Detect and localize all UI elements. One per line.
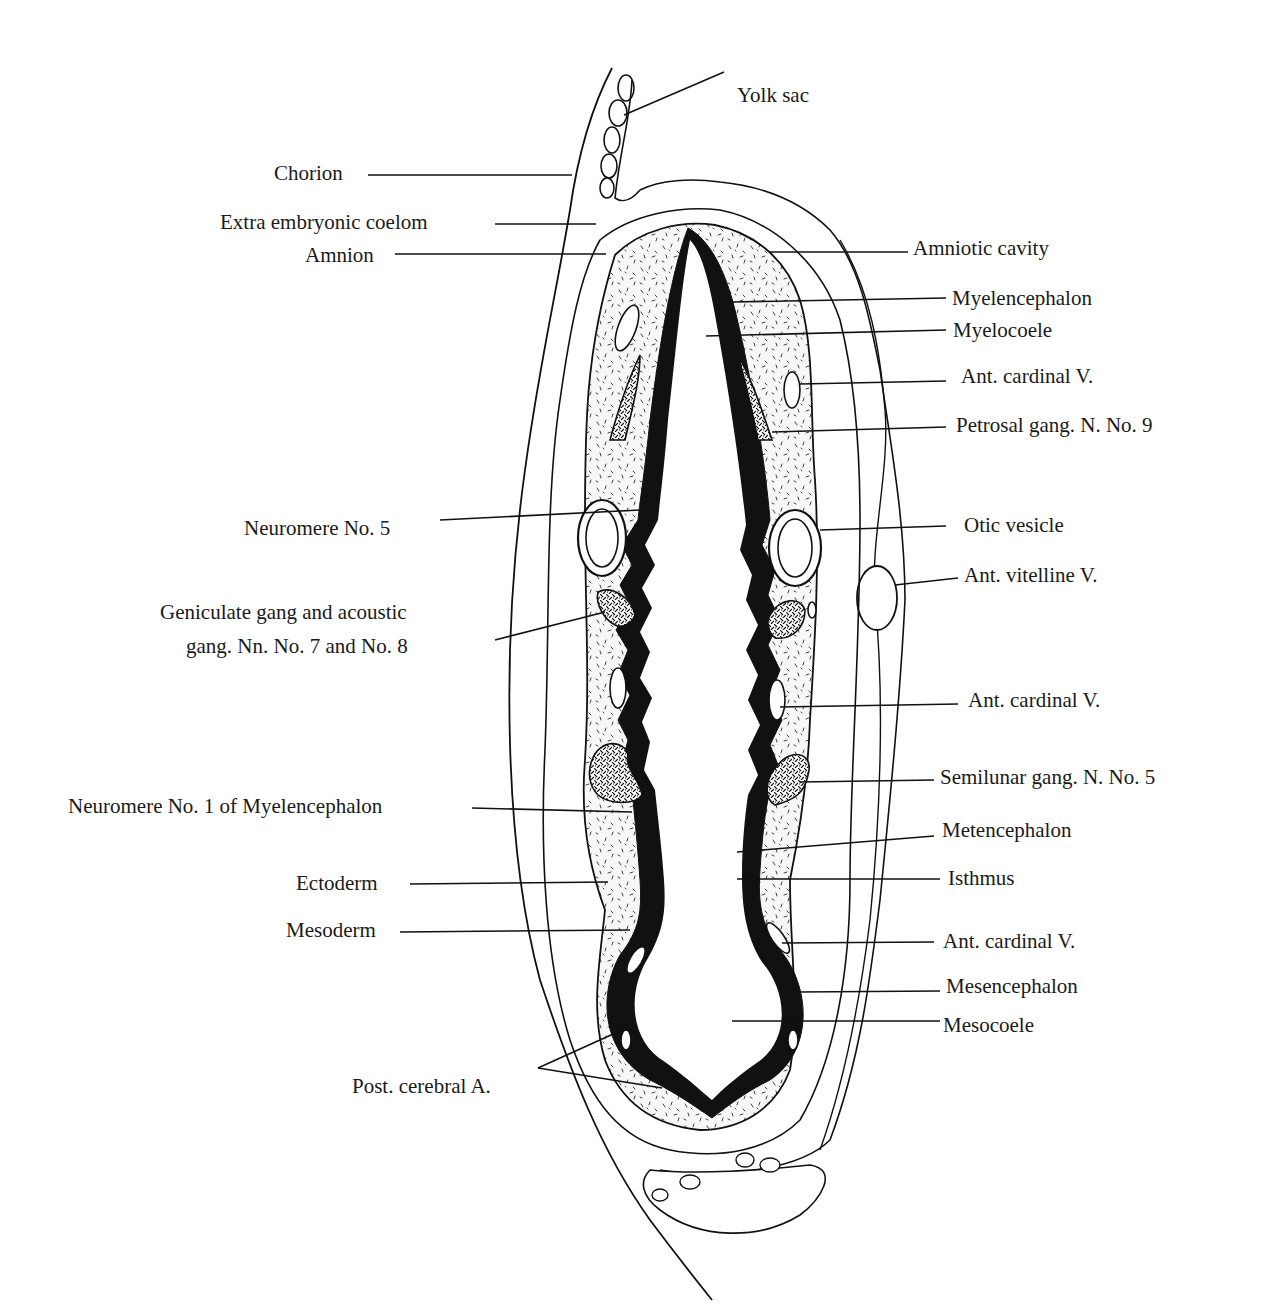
label-yolk-sac: Yolk sac — [737, 85, 809, 106]
label-myelencephalon: Myelencephalon — [952, 288, 1092, 309]
label-extra-embryonic-coelom: Extra embryonic coelom — [220, 212, 428, 233]
label-amniotic-cavity: Amniotic cavity — [913, 238, 1049, 259]
ant-cardinal-vein-left-2 — [610, 668, 626, 708]
label-isthmus: Isthmus — [948, 868, 1015, 889]
label-otic-vesicle: Otic vesicle — [964, 515, 1064, 536]
label-geniculate-gang-line1: Geniculate gang and acoustic — [160, 602, 407, 623]
label-ectoderm: Ectoderm — [296, 873, 378, 894]
label-semilunar-gang: Semilunar gang. N. No. 5 — [940, 767, 1155, 788]
label-metencephalon: Metencephalon — [942, 820, 1071, 841]
label-post-cerebral-artery: Post. cerebral A. — [352, 1076, 491, 1097]
label-neuromere-5: Neuromere No. 5 — [244, 518, 390, 539]
label-mesencephalon: Mesencephalon — [946, 976, 1078, 997]
ant-vitelline-vein — [857, 566, 897, 630]
label-mesocoele: Mesocoele — [943, 1015, 1034, 1036]
label-ant-vitelline-v: Ant. vitelline V. — [964, 565, 1097, 586]
label-myelocoele: Myelocoele — [953, 320, 1052, 341]
ant-cardinal-vein-right-1 — [784, 372, 800, 408]
label-ant-cardinal-v-3: Ant. cardinal V. — [943, 931, 1075, 952]
label-amnion: Amnion — [305, 245, 374, 266]
label-geniculate-gang-line2: gang. Nn. No. 7 and No. 8 — [186, 636, 408, 657]
label-ant-cardinal-v-2: Ant. cardinal V. — [968, 690, 1100, 711]
label-petrosal-gang: Petrosal gang. N. No. 9 — [956, 415, 1153, 436]
label-mesoderm: Mesoderm — [286, 920, 376, 941]
label-ant-cardinal-v-1: Ant. cardinal V. — [961, 366, 1093, 387]
label-chorion: Chorion — [274, 163, 343, 184]
label-neuromere-1: Neuromere No. 1 of Myelencephalon — [68, 796, 382, 817]
ant-cardinal-vein-right-2 — [769, 680, 785, 720]
